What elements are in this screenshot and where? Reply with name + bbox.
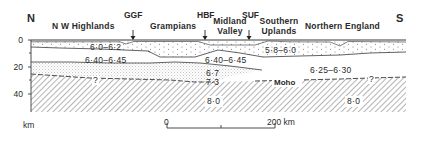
depth-tick-20: 20 <box>7 63 23 72</box>
velocity-upper-south: 5·8–6·0 <box>265 46 296 55</box>
region-southern-uplands: Southern Uplands <box>257 17 301 35</box>
scale-bar <box>167 123 275 128</box>
uncertain-mark-south: ? <box>368 75 375 84</box>
velocity-lower-b: 7·3 <box>206 78 219 87</box>
scale-end-label: 200 km <box>267 118 295 127</box>
velocity-middle-south: 6·25–6·30 <box>310 66 351 75</box>
region-midland-valley-line2: Valley <box>210 27 250 36</box>
velocity-mantle-south: 8·0 <box>347 97 360 106</box>
fault-label-hbf: HBF <box>197 11 214 20</box>
velocity-mantle-central: 8·0 <box>207 97 220 106</box>
uncertain-mark-north: ? <box>92 76 99 85</box>
region-southern-uplands-line1: Southern <box>257 17 301 26</box>
direction-south: S <box>396 13 403 24</box>
depth-tick-0: 0 <box>7 36 23 45</box>
moho-label: Moho <box>272 79 297 87</box>
velocity-middle-north: 6·40–6·45 <box>85 56 126 65</box>
direction-north: N <box>27 13 35 24</box>
fault-arrow-ggf-icon <box>131 30 136 40</box>
depth-unit: km <box>23 121 34 130</box>
fault-arrow-hbf-icon <box>203 30 208 40</box>
region-grampians: Grampians <box>150 22 196 31</box>
velocity-upper-north: 6·0–6·2 <box>90 43 121 52</box>
velocity-middle-central: 6·40–6·45 <box>205 56 246 65</box>
fault-label-suf: SUF <box>242 11 259 20</box>
fault-label-ggf: GGF <box>124 11 142 20</box>
region-nw-highlands: N W Highlands <box>52 22 115 31</box>
depth-axis <box>28 40 31 112</box>
region-northern-england: Northern England <box>305 22 380 31</box>
region-southern-uplands-line2: Uplands <box>257 27 301 36</box>
scale-start-label: 0 <box>164 118 169 127</box>
depth-tick-40: 40 <box>7 90 23 99</box>
